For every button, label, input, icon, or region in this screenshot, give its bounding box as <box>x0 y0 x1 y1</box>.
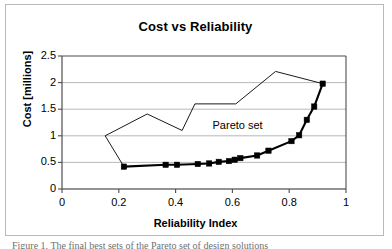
data-point-marker <box>163 162 168 167</box>
chart-frame: Cost vs Reliability Cost [millions] Reli… <box>5 4 384 236</box>
y-tick-label: 2 <box>14 76 56 88</box>
data-point-marker <box>254 153 259 158</box>
y-tick-label: 1 <box>14 129 56 141</box>
data-point-marker <box>174 162 179 167</box>
y-tick-label: 0 <box>14 182 56 194</box>
data-point-marker <box>232 157 237 162</box>
y-tick-label: 1.5 <box>14 102 56 114</box>
data-point-marker <box>216 159 221 164</box>
x-tick-label: 0 <box>37 196 87 208</box>
x-tick-label: 0.8 <box>264 196 314 208</box>
data-point-marker <box>195 161 200 166</box>
data-point-marker <box>304 117 309 122</box>
data-point-marker <box>206 161 211 166</box>
x-tick-label: 0.2 <box>94 196 144 208</box>
data-point-marker <box>238 155 243 160</box>
x-tick-label: 1 <box>321 196 371 208</box>
figure-caption: Figure 1. The final best sets of the Par… <box>12 240 382 249</box>
figure-container: Cost vs Reliability Cost [millions] Reli… <box>0 0 392 249</box>
y-tick-label: 0.5 <box>14 155 56 167</box>
x-tick-label: 0.6 <box>207 196 257 208</box>
y-tick-label: 2.5 <box>14 49 56 61</box>
annotation-pareto-set: Pareto set <box>213 119 263 131</box>
data-point-marker <box>289 138 294 143</box>
data-point-marker <box>311 104 316 109</box>
data-point-marker <box>296 133 301 138</box>
data-point-marker <box>226 158 231 163</box>
data-point-marker <box>266 148 271 153</box>
x-tick-label: 0.4 <box>151 196 201 208</box>
